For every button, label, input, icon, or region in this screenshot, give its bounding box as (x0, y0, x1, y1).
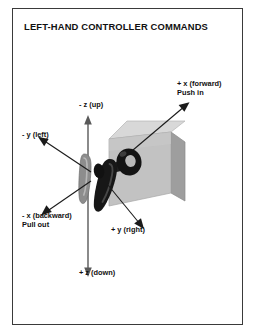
controller-axis-diagram (13, 9, 242, 324)
axis-label-y-left: - y (left) (22, 130, 49, 139)
figure-page: LEFT-HAND CONTROLLER COMMANDS (0, 0, 253, 331)
axis-label-x-forward: + x (forward) Push in (177, 79, 222, 97)
controller-lever-left (79, 154, 91, 203)
axis-label-z-down: + z (down) (79, 268, 115, 277)
axis-label-z-down-line1: + z (down) (79, 268, 115, 277)
axis-label-x-forward-line1: + x (forward) (177, 79, 222, 88)
box-side-face (171, 132, 185, 201)
axis-label-x-forward-line2: Push in (177, 88, 222, 97)
arrowhead-z-up (84, 115, 92, 125)
axis-label-z-up: - z (up) (79, 100, 103, 109)
axis-label-z-up-line1: - z (up) (79, 100, 103, 109)
axis-label-x-backward-line2: Pull out (22, 220, 72, 229)
axis-label-x-backward-line1: - x (backward) (22, 211, 72, 220)
axis-label-y-right: + y (right) (111, 225, 145, 234)
axis-label-x-backward: - x (backward) Pull out (22, 211, 72, 229)
axis-label-y-left-line1: - y (left) (22, 130, 49, 139)
axis-label-y-right-line1: + y (right) (111, 225, 145, 234)
